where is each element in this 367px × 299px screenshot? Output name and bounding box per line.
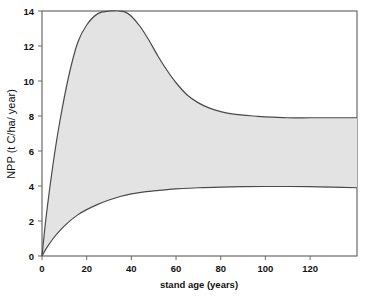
npp-stand-age-chart: 020406080100120 02468101214 stand age (y… [0, 0, 367, 299]
x-tick-label-0: 0 [39, 263, 44, 274]
y-tick-label-6: 6 [29, 146, 34, 157]
x-tick-label-100: 100 [257, 263, 273, 274]
x-tick-label-20: 20 [81, 263, 92, 274]
x-tick-label-80: 80 [215, 263, 226, 274]
x-tick-label-40: 40 [126, 263, 137, 274]
x-axis-ticks: 020406080100120 [39, 256, 318, 274]
y-tick-label-10: 10 [23, 76, 34, 87]
y-tick-label-12: 12 [23, 41, 34, 52]
x-tick-label-60: 60 [171, 263, 182, 274]
x-axis-title: stand age (years) [160, 279, 238, 290]
y-tick-label-14: 14 [23, 6, 34, 17]
y-tick-label-8: 8 [29, 111, 34, 122]
y-tick-label-2: 2 [29, 216, 34, 227]
y-tick-label-0: 0 [29, 251, 34, 262]
y-axis-title: NPP (t C/ha/ year) [5, 89, 17, 179]
x-tick-label-120: 120 [302, 263, 318, 274]
y-tick-label-4: 4 [29, 181, 35, 192]
y-axis-ticks: 02468101214 [23, 6, 42, 262]
chart-figure: 020406080100120 02468101214 stand age (y… [0, 0, 367, 299]
